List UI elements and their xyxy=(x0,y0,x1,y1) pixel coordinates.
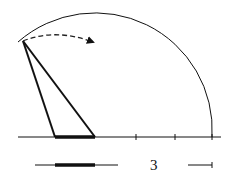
diagram-canvas: 3 xyxy=(0,0,231,188)
triangle xyxy=(23,41,95,137)
dashed-arrow-icon xyxy=(23,35,93,42)
legend-row: 3 xyxy=(35,157,212,173)
rotation-arc xyxy=(18,13,212,137)
legend-label: 3 xyxy=(150,157,158,173)
